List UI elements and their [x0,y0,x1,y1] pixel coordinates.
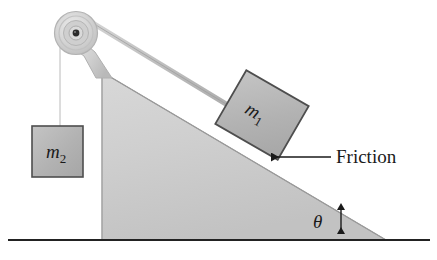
pulley-axle-bolt [73,30,80,37]
diagram-canvas: m2 m1 Friction θ [0,0,437,260]
block-m1: m1 [215,70,308,160]
block-m2: m2 [32,126,83,177]
pulley-axle-highlight [74,31,76,33]
pulley-wheel [55,12,98,55]
physics-diagram-figure: m2 m1 Friction θ [0,0,437,260]
friction-annotation: Friction [271,146,397,167]
angle-label: θ [313,211,322,232]
friction-label: Friction [336,146,397,167]
